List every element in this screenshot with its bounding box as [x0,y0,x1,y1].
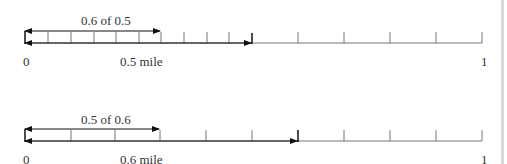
top-number-line [25,31,482,44]
bottom-start-label: 0 [23,153,30,164]
bottom-number-line [25,129,482,142]
number-line-diagram [0,0,507,164]
top-mid-label: 0.5 mile [120,55,163,68]
bottom-mid-label: 0.6 mile [120,153,163,164]
top-ticks-small [48,32,229,43]
bottom-ticks [71,130,482,141]
top-start-label: 0 [23,55,30,68]
right-border-divider [501,0,504,164]
top-bracket-label: 0.6 of 0.5 [81,14,131,27]
top-end-label: 1 [481,55,488,68]
top-ticks-large [298,32,482,43]
bottom-end-label: 1 [481,153,488,164]
bottom-bracket-label: 0.5 of 0.6 [81,113,131,126]
